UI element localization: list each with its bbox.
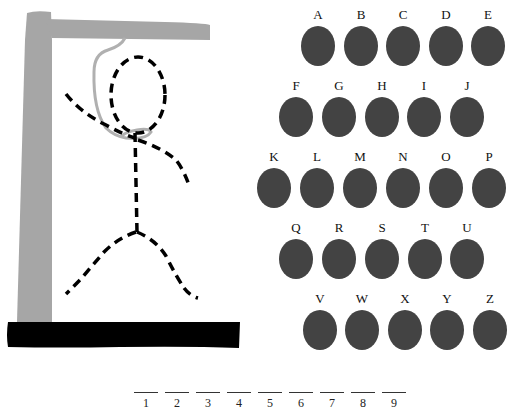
figure-right-arm (138, 140, 190, 188)
letter-disc[interactable] (386, 168, 420, 208)
letter-button-v[interactable]: V (298, 292, 342, 352)
hangman-drawing (0, 0, 260, 360)
letter-label: B (339, 8, 383, 22)
letter-button-w[interactable]: W (340, 292, 384, 352)
letter-disc[interactable] (430, 310, 464, 350)
letter-button-c[interactable]: C (381, 8, 425, 68)
letter-label: I (402, 79, 446, 93)
letter-button-o[interactable]: O (424, 150, 468, 210)
letter-button-b[interactable]: B (339, 8, 383, 68)
letter-slot: 2 (165, 386, 189, 416)
letter-slot: 3 (196, 386, 220, 416)
letter-label: J (445, 79, 489, 93)
slot-number: 2 (165, 396, 189, 411)
slot-underline (196, 392, 220, 393)
letter-button-d[interactable]: D (424, 8, 468, 68)
letter-label: U (445, 221, 489, 235)
letter-button-y[interactable]: Y (425, 292, 469, 352)
letter-button-p[interactable]: P (467, 150, 511, 210)
slot-number: 7 (320, 396, 344, 411)
letter-button-h[interactable]: H (360, 79, 404, 139)
figure-head (111, 57, 165, 133)
letter-button-q[interactable]: Q (274, 221, 318, 281)
figure-right-leg (137, 232, 198, 298)
slot-underline (320, 392, 344, 393)
letter-button-m[interactable]: M (338, 150, 382, 210)
letter-disc[interactable] (279, 239, 313, 279)
letter-disc[interactable] (301, 26, 335, 66)
letter-disc[interactable] (344, 26, 378, 66)
gallows-post (17, 11, 52, 322)
letter-button-x[interactable]: X (383, 292, 427, 352)
letter-slot: 4 (227, 386, 251, 416)
gallows-base (7, 322, 240, 348)
letter-disc[interactable] (322, 239, 356, 279)
letter-disc[interactable] (429, 26, 463, 66)
letter-disc[interactable] (343, 168, 377, 208)
letter-button-t[interactable]: T (403, 221, 447, 281)
letter-button-j[interactable]: J (445, 79, 489, 139)
letter-label: R (317, 221, 361, 235)
letter-button-k[interactable]: K (252, 150, 296, 210)
letter-disc[interactable] (471, 26, 505, 66)
letter-disc[interactable] (429, 168, 463, 208)
slot-underline (165, 392, 189, 393)
letter-label: E (466, 8, 510, 22)
letter-disc[interactable] (365, 97, 399, 137)
slot-number: 1 (134, 396, 158, 411)
slot-underline (134, 392, 158, 393)
letter-button-a[interactable]: A (296, 8, 340, 68)
letter-button-e[interactable]: E (466, 8, 510, 68)
letter-label: L (295, 150, 339, 164)
letter-button-f[interactable]: F (274, 79, 318, 139)
letter-label: O (424, 150, 468, 164)
letter-disc[interactable] (303, 310, 337, 350)
slot-underline (227, 392, 251, 393)
letter-slot: 7 (320, 386, 344, 416)
figure-body (135, 133, 137, 232)
letter-label: F (274, 79, 318, 93)
letter-slot: 9 (382, 386, 406, 416)
letter-disc[interactable] (279, 97, 313, 137)
letter-disc[interactable] (365, 239, 399, 279)
slot-number: 9 (382, 396, 406, 411)
letter-label: Q (274, 221, 318, 235)
slot-underline (351, 392, 375, 393)
letter-slot: 1 (134, 386, 158, 416)
slot-underline (258, 392, 282, 393)
letter-button-i[interactable]: I (402, 79, 446, 139)
slot-number: 3 (196, 396, 220, 411)
letter-disc[interactable] (407, 97, 441, 137)
letter-button-n[interactable]: N (381, 150, 425, 210)
letter-label: P (467, 150, 511, 164)
letter-disc[interactable] (450, 97, 484, 137)
letter-disc[interactable] (345, 310, 379, 350)
letter-disc[interactable] (322, 97, 356, 137)
slot-underline (289, 392, 313, 393)
letter-disc[interactable] (257, 168, 291, 208)
letter-button-s[interactable]: S (360, 221, 404, 281)
letter-disc[interactable] (473, 310, 507, 350)
slot-underline (382, 392, 406, 393)
letter-disc[interactable] (388, 310, 422, 350)
letter-disc[interactable] (300, 168, 334, 208)
letter-button-g[interactable]: G (317, 79, 361, 139)
letter-label: V (298, 292, 342, 306)
slot-number: 4 (227, 396, 251, 411)
letter-button-u[interactable]: U (445, 221, 489, 281)
letter-slot: 5 (258, 386, 282, 416)
letter-label: Z (468, 292, 512, 306)
letter-button-l[interactable]: L (295, 150, 339, 210)
letter-slot: 6 (289, 386, 313, 416)
letter-button-r[interactable]: R (317, 221, 361, 281)
letter-disc[interactable] (472, 168, 506, 208)
letter-disc[interactable] (450, 239, 484, 279)
letter-disc[interactable] (386, 26, 420, 66)
letter-label: X (383, 292, 427, 306)
letter-disc[interactable] (408, 239, 442, 279)
slot-number: 8 (351, 396, 375, 411)
letter-button-z[interactable]: Z (468, 292, 512, 352)
figure-left-leg (66, 232, 136, 294)
letter-label: M (338, 150, 382, 164)
letter-label: D (424, 8, 468, 22)
